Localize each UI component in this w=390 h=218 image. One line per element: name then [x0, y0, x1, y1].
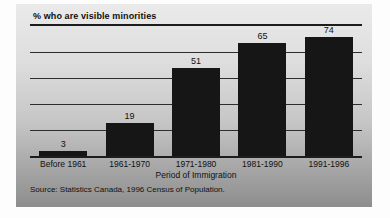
bar [238, 43, 286, 156]
x-axis-category-label: Before 1961 [30, 159, 96, 169]
chart-title: % who are visible minorities [33, 11, 156, 21]
x-axis-category-label: 1981-1990 [229, 159, 295, 169]
x-axis-category-label: 1991-1996 [296, 159, 362, 169]
bar-value-label: 51 [191, 57, 201, 66]
bar-column: 19 [96, 26, 162, 156]
category-labels: Before 19611961-19701971-19801981-199019… [30, 159, 362, 169]
x-axis-category-label: 1971-1980 [163, 159, 229, 169]
x-axis-category-label: 1961-1970 [96, 159, 162, 169]
bar-value-label: 3 [61, 140, 66, 149]
bar-column: 3 [30, 26, 96, 156]
figure-canvas: % who are visible minorities 319516574 B… [0, 0, 390, 218]
bar-column: 51 [163, 26, 229, 156]
bar-value-label: 19 [125, 112, 135, 121]
bar [305, 37, 353, 156]
x-axis-label: Period of Immigration [30, 170, 362, 180]
bar-value-label: 74 [324, 26, 334, 35]
source-note: Source: Statistics Canada, 1996 Census o… [30, 185, 225, 194]
bar-column: 65 [229, 26, 295, 156]
bar [39, 151, 87, 156]
plot-area: 319516574 [30, 24, 362, 158]
bar-column: 74 [296, 26, 362, 156]
chart-panel: % who are visible minorities 319516574 B… [16, 4, 372, 207]
bar [172, 68, 220, 156]
bar [106, 123, 154, 156]
bar-value-label: 65 [257, 32, 267, 41]
